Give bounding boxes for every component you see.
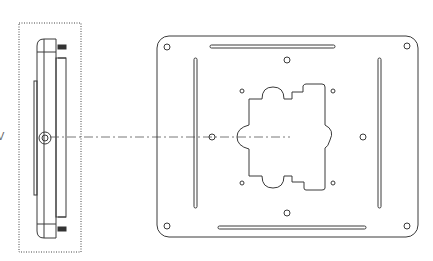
detail-box	[19, 23, 81, 252]
hole-cutout-tl	[240, 89, 244, 93]
slot-right	[378, 58, 381, 208]
screw-top	[58, 45, 66, 49]
knob-outer	[39, 132, 51, 144]
hole-cutout-bl	[240, 181, 244, 185]
hole-cutout-tr	[331, 89, 335, 93]
hole-bottom-mid	[284, 210, 290, 216]
slot-bottom	[218, 226, 366, 229]
plate-outline	[157, 36, 418, 237]
rear-plate	[56, 58, 66, 217]
slot-top	[210, 45, 335, 48]
screw-bottom	[58, 227, 66, 231]
side-view	[19, 23, 81, 252]
bracket-body	[37, 39, 56, 238]
knob-inner	[42, 135, 48, 141]
hole-right-center	[360, 134, 366, 140]
hole-top-mid	[284, 57, 290, 63]
front-thin-plate	[34, 81, 37, 195]
hole-cutout-br	[331, 181, 335, 185]
drawing-canvas	[0, 0, 433, 261]
slot-left	[194, 58, 197, 208]
corner-hole-bl	[164, 223, 170, 229]
corner-hole-br	[404, 223, 410, 229]
corner-hole-tl	[164, 44, 170, 50]
corner-hole-tr	[404, 43, 410, 49]
front-view	[157, 36, 418, 237]
